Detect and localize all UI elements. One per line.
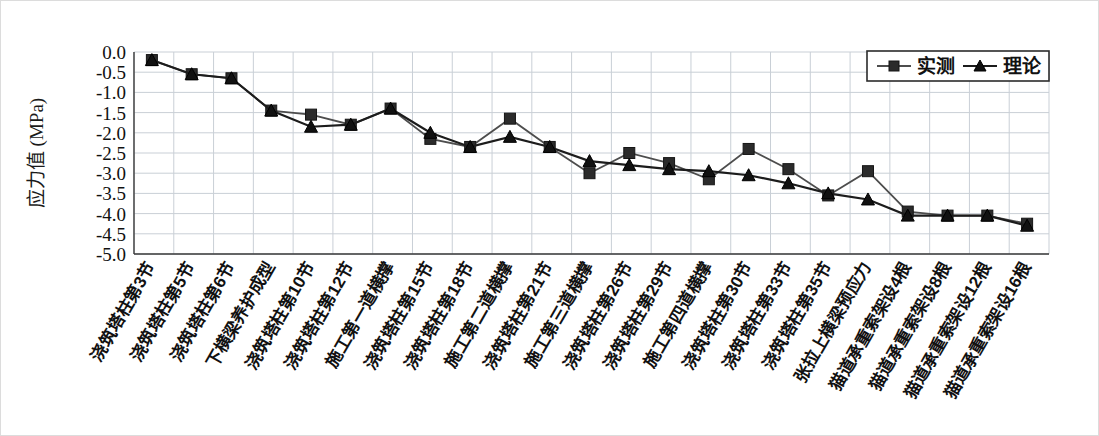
y-tick-label: -2.0 bbox=[96, 123, 126, 144]
chart-figure: 0.0-0.5-1.0-1.5-2.0-2.5-3.0-3.5-4.0-4.5-… bbox=[0, 0, 1099, 436]
legend-label-theory: 理论 bbox=[1003, 55, 1042, 77]
stress-line-chart: 0.0-0.5-1.0-1.5-2.0-2.5-3.0-3.5-4.0-4.5-… bbox=[1, 1, 1099, 436]
legend-label-measured: 实测 bbox=[917, 55, 955, 77]
data-point-marker bbox=[504, 113, 515, 124]
y-tick-label: -1.5 bbox=[96, 103, 126, 124]
y-tick-label: -3.5 bbox=[96, 183, 126, 204]
legend-marker-square bbox=[889, 61, 899, 71]
series-path bbox=[152, 60, 1027, 226]
y-tick-label: -4.0 bbox=[96, 204, 126, 225]
y-tick-label: -5.0 bbox=[96, 244, 126, 265]
data-point-marker bbox=[584, 168, 595, 179]
data-point-marker bbox=[503, 130, 516, 142]
data-point-marker bbox=[743, 143, 754, 154]
y-tick-label: 0.0 bbox=[102, 42, 126, 63]
y-tick-label: -0.5 bbox=[96, 62, 126, 83]
data-point-marker bbox=[783, 164, 794, 175]
y-axis-title: 应力值 (MPa) bbox=[26, 98, 48, 208]
data-point-marker bbox=[306, 109, 317, 120]
y-tick-label: -2.5 bbox=[96, 143, 126, 164]
x-category-labels: 浇筑塔柱第3节浇筑塔柱第5节浇筑塔柱第6节下横梁养护成型浇筑塔柱第10节浇筑塔柱… bbox=[86, 258, 1034, 402]
gridlines bbox=[134, 52, 1049, 254]
chart-legend: 实测理论 bbox=[867, 51, 1049, 81]
data-point-marker bbox=[624, 148, 635, 159]
series-path bbox=[152, 60, 1027, 224]
y-tick-label: -4.5 bbox=[96, 224, 126, 245]
data-point-marker bbox=[862, 166, 873, 177]
y-tick-labels: 0.0-0.5-1.0-1.5-2.0-2.5-3.0-3.5-4.0-4.5-… bbox=[96, 42, 126, 265]
y-tick-label: -3.0 bbox=[96, 163, 126, 184]
y-axis-title-text: 应力值 (MPa) bbox=[26, 98, 48, 208]
y-tick-label: -1.0 bbox=[96, 82, 126, 103]
